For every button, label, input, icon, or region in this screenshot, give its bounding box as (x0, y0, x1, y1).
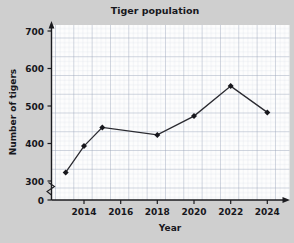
y-tick-label-400: 400 (25, 139, 44, 149)
x-axis-ticks: 2014 2016 2018 2020 2022 2024 (71, 200, 279, 217)
x-axis-title: Year (158, 223, 182, 233)
x-tick-label-2014: 2014 (71, 207, 96, 217)
plot-gridlines (52, 25, 290, 200)
y-tick-label-0: 0 (38, 196, 44, 206)
y-tick-label-600: 600 (25, 64, 44, 74)
x-tick-label-2020: 2020 (181, 207, 206, 217)
x-tick-label-2016: 2016 (108, 207, 133, 217)
tiger-population-chart: Tiger population 700 600 500 400 (0, 0, 294, 243)
y-tick-label-500: 500 (25, 102, 44, 112)
y-tick-label-300: 300 (25, 177, 44, 187)
y-axis-title: Number of tigers (8, 69, 18, 155)
y-axis-arrow (49, 21, 55, 29)
chart-title: Tiger population (111, 5, 200, 16)
y-tick-label-700: 700 (25, 27, 44, 37)
x-tick-label-2022: 2022 (218, 207, 243, 217)
x-tick-label-2018: 2018 (145, 207, 170, 217)
chart-canvas: Tiger population 700 600 500 400 (0, 0, 294, 243)
x-tick-label-2024: 2024 (255, 207, 280, 217)
y-axis-ticks: 700 600 500 400 300 0 (25, 27, 51, 206)
